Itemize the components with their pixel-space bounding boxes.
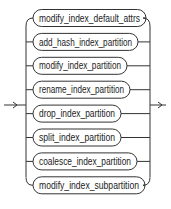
choice-row: add_hash_index_partition (26, 33, 150, 50)
choice-label: modify_index_partition (39, 59, 121, 71)
choice-label: add_hash_index_partition (39, 36, 132, 48)
exit-arrow-icon (150, 102, 166, 108)
choice-label: rename_index_partition (39, 83, 124, 95)
railroad-diagram: modify_index_default_attrsadd_hash_index… (0, 0, 171, 209)
choice-label: modify_index_default_attrs (39, 12, 140, 24)
choice-label: split_index_partition (39, 131, 115, 143)
choice-row: modify_index_partition (26, 57, 150, 74)
choice-label: coalesce_index_partition (39, 155, 131, 167)
choice-label: drop_index_partition (39, 107, 115, 119)
choice-row: split_index_partition (26, 129, 150, 146)
choice-row: drop_index_partition (26, 105, 150, 122)
choice-label: modify_index_subpartition (39, 179, 139, 191)
choice-row: modify_index_default_attrs (26, 10, 150, 27)
choice-row: modify_index_subpartition (26, 177, 150, 194)
choice-row: coalesce_index_partition (26, 153, 150, 170)
choice-row: rename_index_partition (26, 81, 150, 98)
entry-arrow-icon (4, 102, 26, 108)
